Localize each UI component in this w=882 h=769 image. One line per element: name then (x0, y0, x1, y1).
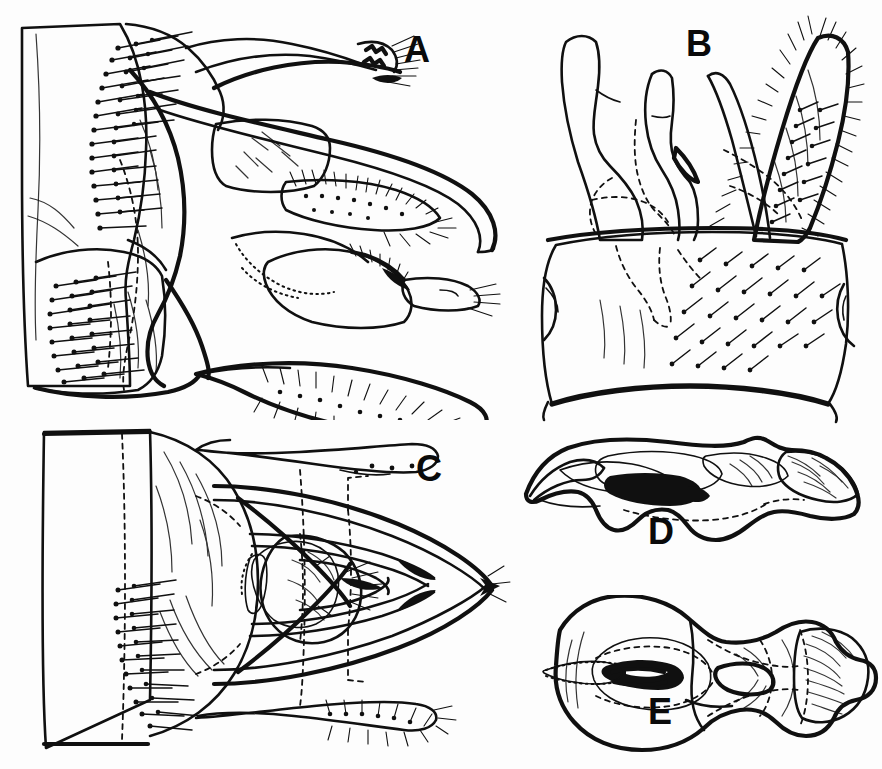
panel-label-c: C (416, 451, 442, 487)
panel-label-e: E (648, 694, 672, 730)
panel-d-drawing (526, 438, 859, 540)
panel-label-d: D (648, 514, 674, 550)
figure-plate: A B C D E (0, 0, 882, 769)
illustration-canvas (0, 0, 882, 769)
panel-a-drawing (22, 24, 500, 446)
panel-label-b: B (686, 26, 712, 62)
panel-label-a: A (404, 32, 430, 68)
panel-b-drawing (542, 16, 864, 422)
panel-e-drawing (543, 596, 876, 750)
